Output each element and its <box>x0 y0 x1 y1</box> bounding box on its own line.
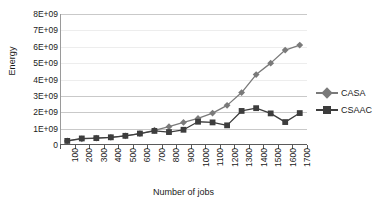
legend-label: CASA <box>341 88 366 98</box>
y-axis-tick-label: 5E+09 <box>33 59 58 68</box>
legend-item-casa[interactable]: CASA <box>316 84 388 101</box>
y-axis-tick-label: 8E+09 <box>33 10 58 19</box>
x-axis-tick-label: 800 <box>172 148 181 162</box>
x-axis-tick-labels: 1002003004005006007008009001000110012001… <box>60 148 307 184</box>
x-axis-tick-label: 1300 <box>245 148 254 167</box>
legend-label: CSAAC <box>341 105 372 115</box>
data-point-marker <box>181 127 187 133</box>
data-point-marker <box>64 138 70 144</box>
data-point-marker <box>268 111 274 117</box>
data-point-marker <box>282 119 288 125</box>
y-axis-tick-label: 7E+09 <box>33 26 58 35</box>
data-point-marker <box>122 133 128 139</box>
x-axis-tick-label: 600 <box>143 148 152 162</box>
x-axis-tick-label: 1200 <box>231 148 240 167</box>
x-axis-tick-label: 1600 <box>289 148 298 167</box>
data-point-marker <box>239 108 245 114</box>
data-point-marker <box>297 110 303 116</box>
x-axis-tick-label: 100 <box>71 148 80 162</box>
square-marker-icon <box>316 104 338 115</box>
data-point-marker <box>93 135 99 141</box>
y-axis-tick-label: 4E+09 <box>33 75 58 84</box>
y-axis-tick-label: 6E+09 <box>33 43 58 52</box>
y-axis-tick-label: 1E+09 <box>33 124 58 133</box>
diamond-marker-icon <box>316 87 338 98</box>
plot-area <box>60 14 307 145</box>
x-axis-tick-label: 500 <box>129 148 138 162</box>
data-point-marker <box>166 123 173 130</box>
data-point-marker <box>224 122 230 128</box>
y-axis-tick-labels: 01E+092E+093E+094E+095E+096E+097E+098E+0… <box>16 10 58 149</box>
x-axis-tick-label: 1500 <box>274 148 283 167</box>
data-point-marker <box>209 110 216 117</box>
data-point-marker <box>108 134 114 140</box>
x-axis-title: Number of jobs <box>60 187 307 197</box>
data-point-marker <box>137 131 143 137</box>
data-point-marker <box>79 136 85 142</box>
data-point-marker <box>195 119 201 125</box>
chart-legend: CASACSAAC <box>316 84 388 118</box>
data-point-marker <box>210 120 216 126</box>
y-axis-tick-label: 3E+09 <box>33 92 58 101</box>
x-axis-tick-label: 200 <box>85 148 94 162</box>
y-axis-tick-label: 0 <box>53 141 58 150</box>
data-point-marker <box>296 42 303 49</box>
legend-item-csaac[interactable]: CSAAC <box>316 101 388 118</box>
x-axis-tick-label: 1000 <box>202 148 211 167</box>
series-line <box>67 45 299 141</box>
chart-container: Energy 01E+092E+093E+094E+095E+096E+097E… <box>0 0 389 204</box>
data-point-marker <box>180 119 187 126</box>
x-axis-tick-label: 1700 <box>303 148 312 167</box>
x-axis-tick-label: 900 <box>187 148 196 162</box>
series-layer <box>60 14 307 145</box>
x-axis-tick-label: 700 <box>158 148 167 162</box>
y-axis-tick-label: 2E+09 <box>33 108 58 117</box>
x-axis-tick-label: 300 <box>100 148 109 162</box>
x-axis-tick-label: 1400 <box>260 148 269 167</box>
data-point-marker <box>166 129 172 135</box>
data-point-marker <box>152 128 158 134</box>
x-axis-tick-label: 1100 <box>216 148 225 166</box>
x-axis-tick-label: 400 <box>114 148 123 162</box>
data-point-marker <box>253 105 259 111</box>
